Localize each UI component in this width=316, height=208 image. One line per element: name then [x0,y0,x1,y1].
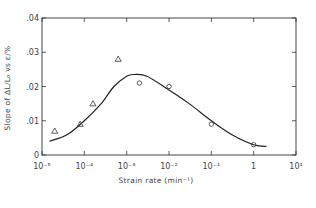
x-tick-label: 1 [251,162,256,171]
data-points [52,56,256,147]
plot-frame [42,18,296,155]
chart: 10⁻⁵10⁻⁴10⁻³10⁻²10⁻¹110¹ 0.01.02.03.04 S… [0,0,316,208]
y-axis-title: Slope of ΔL/L₀ vs ε/% [3,46,12,131]
triangle-marker [52,128,58,133]
y-tick-label: .04 [26,14,39,23]
x-tick-label: 10⁻² [160,162,178,171]
x-tick-label: 10⁻⁴ [76,162,94,171]
y-tick-label: .01 [26,117,39,126]
triangle-marker [115,56,121,61]
x-tick-label: 10¹ [289,162,302,171]
x-tick-label: 10⁻⁵ [33,162,51,171]
x-tick-label: 10⁻¹ [203,162,221,171]
x-axis: 10⁻⁵10⁻⁴10⁻³10⁻²10⁻¹110¹ [33,18,303,171]
x-tick-label: 10⁻³ [118,162,136,171]
y-axis: 0.01.02.03.04 [26,14,296,160]
fit-curve [49,74,266,146]
circle-marker [137,81,141,85]
y-tick-label: .02 [26,83,39,92]
circle-marker [167,84,171,88]
y-tick-label: 0 [34,151,39,160]
y-tick-label: .03 [26,48,39,57]
circle-marker [209,122,213,126]
x-axis-title: Strain rate (min⁻¹) [119,176,194,185]
triangle-marker [90,101,96,106]
